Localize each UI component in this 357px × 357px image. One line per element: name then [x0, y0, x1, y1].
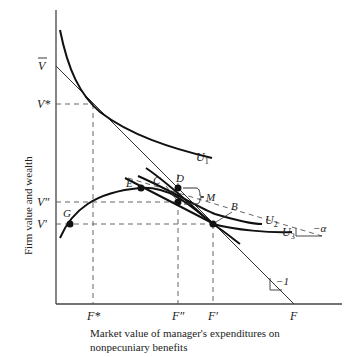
- budget-line: [56, 66, 294, 304]
- x-tick-f-prime: F′: [207, 309, 218, 323]
- x-axis-caption-line1: Market value of manager's expenditures o…: [90, 327, 280, 339]
- label-minus-alpha: −α: [313, 222, 326, 234]
- y-tick-v-bar: V: [38, 59, 47, 73]
- label-g: G: [63, 207, 71, 219]
- y-tick-v-star: V*: [37, 97, 50, 111]
- label-b: B: [231, 200, 238, 212]
- y-tick-v-prime: V′: [37, 217, 47, 231]
- x-tick-f-double-prime: F″: [171, 309, 185, 323]
- label-c: C: [153, 174, 161, 186]
- label-minus-one: −1: [276, 275, 289, 287]
- label-d: D: [175, 172, 184, 184]
- x-axis-caption-line2: nonpecuniary benefits: [90, 341, 187, 353]
- point-d: [175, 185, 182, 192]
- label-e: E: [125, 177, 133, 189]
- label-m: M: [205, 191, 216, 203]
- label-u2: U2: [265, 213, 278, 229]
- indifference-curve-u1: [60, 30, 212, 158]
- y-tick-v-double-prime: V″: [37, 195, 50, 209]
- point-c: [175, 199, 182, 206]
- y-axis-label: Firm value and wealth: [22, 156, 34, 255]
- arrow-b: [216, 212, 232, 222]
- diagram-canvas: V V* V″ V′ F* F″ F′ F U1 U2 U3 B C D E G…: [0, 0, 357, 357]
- label-u1: U1: [196, 150, 209, 166]
- point-b: [210, 221, 217, 228]
- x-tick-f-star: F*: [86, 309, 100, 323]
- x-tick-f: F: [289, 309, 298, 323]
- point-g: [67, 221, 74, 228]
- point-e: [138, 185, 145, 192]
